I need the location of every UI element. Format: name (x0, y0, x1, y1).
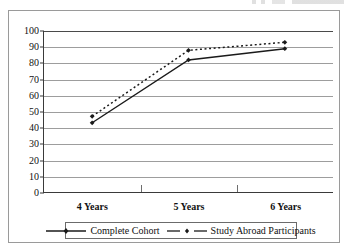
series-line (92, 42, 285, 116)
y-tick-mark (40, 193, 44, 194)
y-tick-label: 90 (29, 42, 39, 52)
series-marker (282, 40, 287, 45)
chart-legend: Complete Cohort Study Abroad Participant… (65, 222, 297, 239)
y-tick-label: 50 (29, 107, 39, 117)
y-tick-label: 60 (29, 91, 39, 101)
y-tick-label: 0 (34, 188, 39, 198)
y-tick-label: 30 (29, 139, 39, 149)
y-tick-label: 100 (24, 26, 39, 36)
series-plot (44, 31, 333, 192)
y-tick-label: 20 (29, 156, 39, 166)
y-tick-label: 40 (29, 123, 39, 133)
y-tick-label: 80 (29, 58, 39, 68)
legend-key-dashed-line-icon (167, 226, 207, 236)
chart-figure-frame: 0102030405060708090100 4 Years5 Years6 Y… (8, 10, 340, 243)
cut-off-text-sliver (252, 0, 344, 4)
x-tick-label: 6 Years (270, 201, 301, 212)
x-tick-label: 5 Years (173, 201, 204, 212)
y-tick-label: 70 (29, 75, 39, 85)
series-marker (90, 114, 95, 119)
legend-key-solid-line-icon (46, 226, 86, 236)
legend-entry-study-abroad-participants[interactable]: Study Abroad Participants (167, 225, 316, 236)
series-marker (186, 48, 191, 53)
legend-label-complete-cohort: Complete Cohort (90, 225, 159, 236)
x-tick-label: 4 Years (77, 201, 108, 212)
legend-label-study-abroad-participants: Study Abroad Participants (211, 225, 316, 236)
plot-area: 0102030405060708090100 4 Years5 Years6 Y… (43, 31, 333, 193)
series-marker (282, 46, 287, 51)
plot-wrapper: 0102030405060708090100 4 Years5 Years6 Y… (43, 31, 333, 193)
legend-entry-complete-cohort[interactable]: Complete Cohort (46, 225, 159, 236)
y-tick-label: 10 (29, 172, 39, 182)
